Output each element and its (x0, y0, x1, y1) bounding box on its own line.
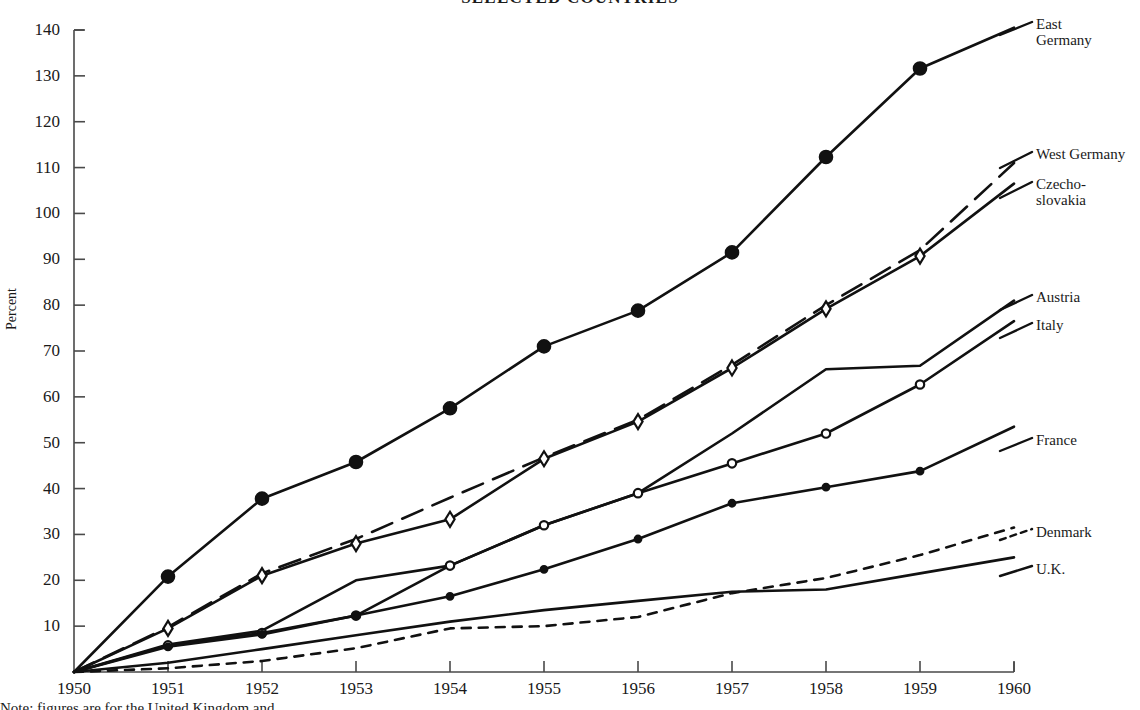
y-tick-label: 10 (0, 617, 60, 634)
figure-caption: Note: figures are for the United Kingdom… (0, 700, 1140, 710)
y-tick-label: 50 (0, 434, 60, 451)
marker-filled-circle-small (634, 535, 641, 542)
marker-filled-circle (538, 340, 551, 353)
plot-area (0, 0, 1140, 710)
label-leader-line (1000, 295, 1032, 310)
marker-filled-circle (632, 304, 645, 317)
marker-open-diamond (539, 451, 548, 466)
y-tick-label: 40 (0, 480, 60, 497)
marker-filled-circle-small (916, 468, 923, 475)
chart-figure: SELECTED COUNTRIES Percent 1020304050607… (0, 0, 1140, 710)
series-label-west-germany: West Germany (1036, 146, 1125, 162)
y-tick-label: 60 (0, 388, 60, 405)
x-tick-label: 1958 (781, 680, 871, 697)
y-tick-label: 120 (0, 113, 60, 130)
marker-open-diamond (445, 512, 454, 527)
marker-filled-circle (726, 246, 739, 259)
y-tick-label: 70 (0, 342, 60, 359)
y-tick-label: 110 (0, 159, 60, 176)
x-tick-label: 1956 (593, 680, 683, 697)
series-label-czechoslovakia: Czecho- slovakia (1036, 176, 1086, 208)
y-tick-label: 80 (0, 296, 60, 313)
marker-filled-circle (162, 570, 175, 583)
series-line-italy (74, 321, 1014, 672)
label-leader-line (1000, 323, 1032, 338)
y-tick-label: 100 (0, 204, 60, 221)
y-tick-label: 140 (0, 21, 60, 38)
label-leader-line (1000, 438, 1032, 451)
x-tick-label: 1955 (499, 680, 589, 697)
series-label-austria: Austria (1036, 289, 1080, 305)
series-line-west-germany (74, 163, 1014, 672)
series-label-italy: Italy (1036, 317, 1064, 333)
x-tick-label: 1957 (687, 680, 777, 697)
label-leader-line (1000, 152, 1032, 168)
y-tick-label: 20 (0, 571, 60, 588)
marker-filled-circle-small (728, 500, 735, 507)
marker-filled-circle (914, 62, 927, 75)
marker-open-diamond (257, 568, 266, 583)
x-tick-label: 1950 (29, 680, 119, 697)
series-line-denmark (74, 528, 1014, 673)
series-label-france: France (1036, 432, 1077, 448)
y-tick-label: 130 (0, 67, 60, 84)
marker-open-circle (446, 561, 454, 569)
series-line-u-k (74, 557, 1014, 672)
marker-filled-circle (256, 492, 269, 505)
marker-filled-circle-small (822, 484, 829, 491)
series-label-u-k: U.K. (1036, 561, 1065, 577)
marker-filled-circle-small (352, 612, 359, 619)
series-label-denmark: Denmark (1036, 524, 1092, 540)
y-tick-label: 30 (0, 525, 60, 542)
marker-filled-circle-small (164, 643, 171, 650)
y-tick-label: 90 (0, 250, 60, 267)
series-line-austria (74, 301, 1014, 672)
label-leader-line (1000, 566, 1032, 576)
x-tick-label: 1960 (969, 680, 1059, 697)
marker-open-diamond (633, 414, 642, 429)
x-tick-label: 1959 (875, 680, 965, 697)
marker-filled-circle-small (446, 593, 453, 600)
marker-open-circle (540, 521, 548, 529)
series-line-czechoslovakia (74, 184, 1014, 672)
marker-filled-circle-small (258, 631, 265, 638)
series-label-east-germany: East Germany (1036, 16, 1092, 48)
marker-open-circle (634, 489, 642, 497)
marker-open-circle (916, 380, 924, 388)
x-tick-label: 1952 (217, 680, 307, 697)
x-tick-label: 1951 (123, 680, 213, 697)
marker-open-circle (822, 429, 830, 437)
marker-open-circle (728, 459, 736, 467)
marker-filled-circle (444, 402, 457, 415)
x-tick-label: 1954 (405, 680, 495, 697)
marker-filled-circle-small (540, 566, 547, 573)
marker-open-diamond (163, 621, 172, 636)
marker-filled-circle (820, 151, 833, 164)
label-leader-line (1000, 22, 1032, 35)
marker-filled-circle (350, 455, 363, 468)
x-tick-label: 1953 (311, 680, 401, 697)
